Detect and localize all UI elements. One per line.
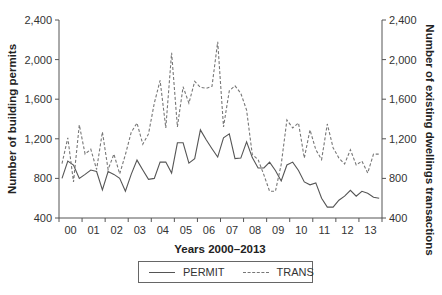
legend-item-trans: TRANS	[243, 266, 314, 278]
y-tick-label-left: 800	[34, 172, 52, 184]
y-tick-label-left: 400	[34, 212, 52, 224]
legend-item-permit: PERMIT	[149, 266, 225, 278]
solid-line-swatch-icon	[149, 272, 175, 273]
y-tick-label-right: 800	[389, 172, 407, 184]
series-line-permit	[62, 130, 379, 207]
legend: PERMIT TRANS	[138, 261, 313, 283]
x-tick-label: 02	[111, 224, 123, 236]
x-tick-label: 13	[364, 224, 376, 236]
axes: 4004008008001,2001,2001,6001,6002,0002,0…	[24, 14, 416, 236]
legend-label-permit: PERMIT	[183, 266, 225, 278]
x-axis-title: Years 2000–2013	[174, 243, 265, 255]
x-tick-label: 07	[226, 224, 238, 236]
x-tick-label: 06	[203, 224, 215, 236]
y-axis-title-left: Number of building permits	[6, 44, 18, 194]
series-line-trans	[62, 42, 379, 192]
y-tick-label-right: 2,000	[389, 54, 417, 66]
chart: 4004008008001,2001,2001,6001,6002,0002,0…	[0, 0, 442, 260]
y-axis-title-right: Number of existing dwellings transaction…	[424, 24, 436, 255]
legend-label-trans: TRANS	[277, 266, 314, 278]
series-lines	[62, 42, 379, 207]
y-tick-label-right: 1,200	[389, 133, 417, 145]
y-tick-label-left: 1,200	[24, 133, 52, 145]
y-tick-label-right: 2,400	[389, 14, 417, 26]
x-tick-label: 00	[64, 224, 76, 236]
y-tick-label-left: 2,400	[24, 14, 52, 26]
x-tick-label: 09	[272, 224, 284, 236]
y-tick-label-left: 1,600	[24, 93, 52, 105]
y-tick-label-right: 400	[389, 212, 407, 224]
x-tick-label: 03	[134, 224, 146, 236]
x-tick-label: 04	[157, 224, 169, 236]
x-tick-label: 10	[295, 224, 307, 236]
x-tick-label: 12	[341, 224, 353, 236]
x-tick-label: 08	[249, 224, 261, 236]
y-tick-label-left: 2,000	[24, 54, 52, 66]
x-tick-label: 01	[87, 224, 99, 236]
dashed-line-swatch-icon	[243, 272, 269, 273]
x-tick-label: 05	[180, 224, 192, 236]
x-tick-label: 11	[319, 224, 330, 236]
y-tick-label-right: 1,600	[389, 93, 417, 105]
